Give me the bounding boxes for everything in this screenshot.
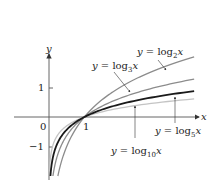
log10-label: y = log10x xyxy=(110,145,162,159)
log-functions-chart: x y 0 1 1 −1 y = log2x y = log3x y = log… xyxy=(0,0,217,185)
y-axis-label: y xyxy=(45,43,52,54)
curve-log2 xyxy=(58,57,194,176)
y-tick-label-1: 1 xyxy=(38,82,44,93)
origin-label: 0 xyxy=(40,121,46,132)
curves-group xyxy=(49,57,194,176)
x-tick-label-1: 1 xyxy=(83,121,89,132)
log3-label: y = log3x xyxy=(91,60,138,74)
y-tick-label-minus1: −1 xyxy=(29,141,44,152)
x-axis-label: x xyxy=(201,111,207,122)
log5-label: y = log5x xyxy=(154,125,201,139)
log2-label: y = log2x xyxy=(136,46,183,60)
